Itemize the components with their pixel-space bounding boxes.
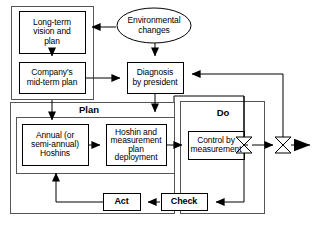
node-diagnosis-by-president: [128, 63, 184, 94]
flowchart-diagram: Long-term vision and plan Environmental …: [0, 0, 330, 234]
edge-feedback-to-diagnosis: [192, 74, 283, 140]
node-check: [162, 194, 208, 211]
diagram-canvas: [0, 0, 330, 234]
node-long-term-vision: [20, 12, 86, 54]
node-hoshin-deployment: [107, 125, 167, 166]
edge-act-to-hoshins: [56, 173, 103, 202]
node-control-by-measurement: [189, 132, 245, 160]
node-environmental-changes: [117, 8, 191, 43]
valve-outer-icon: [275, 137, 291, 153]
node-annual-hoshins: [23, 125, 89, 166]
node-company-midterm-plan: [20, 63, 86, 94]
node-act: [104, 194, 141, 211]
